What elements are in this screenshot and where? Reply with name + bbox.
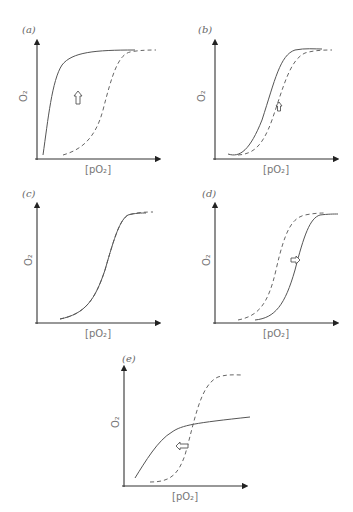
x-axis-label: [pO₂]: [85, 164, 111, 175]
panel-c: (c) O₂ [pO₂]: [22, 188, 158, 339]
panel-d-label: (d): [202, 188, 216, 199]
panel-e-label: (e): [122, 353, 136, 364]
panel-e: (e) O₂ [pO₂]: [110, 353, 250, 502]
shift-arrow-icon: [176, 442, 188, 450]
x-axis-label: [pO₂]: [172, 491, 198, 502]
panel-d: (d) O₂ [pO₂]: [201, 188, 338, 339]
y-axis-label: O₂: [18, 90, 29, 102]
solid-curve: [60, 213, 146, 319]
shift-arrow-icon: [74, 91, 82, 104]
panel-c-label: (c): [22, 188, 36, 199]
panel-a: (a) O₂ [pO₂]: [18, 24, 158, 175]
y-axis-label: O₂: [201, 254, 212, 266]
panel-a-label: (a): [22, 24, 36, 35]
solid-curve: [255, 214, 338, 320]
dashed-curve: [238, 50, 332, 155]
dashed-curve: [150, 375, 243, 482]
y-axis-label: O₂: [110, 416, 121, 428]
panel-b-label: (b): [198, 24, 212, 35]
x-axis-label: [pO₂]: [263, 164, 289, 175]
panel-b: (b) O₂ [pO₂]: [196, 24, 336, 175]
x-axis-label: [pO₂]: [263, 328, 289, 339]
y-axis-label: O₂: [196, 90, 207, 102]
solid-curve: [228, 49, 322, 155]
x-axis-label: [pO₂]: [85, 328, 111, 339]
oxygen-binding-curves-figure: (a) O₂ [pO₂] (b) O₂ [pO₂] (c) O₂ [pO₂] (…: [0, 0, 353, 512]
y-axis-label: O₂: [23, 254, 34, 266]
